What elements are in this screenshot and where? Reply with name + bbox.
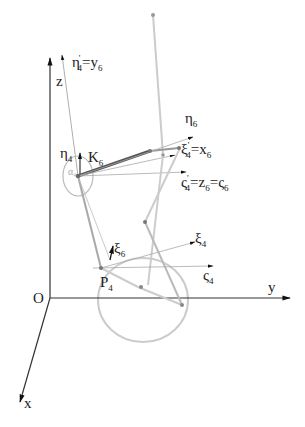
k6-joint — [76, 174, 80, 178]
zeta4-label: ς4 — [203, 267, 214, 286]
z-axis-label: z — [56, 73, 63, 89]
zeta4-axis — [93, 266, 213, 268]
lower-joint — [143, 220, 147, 224]
zeta4p-z6-zeta6-label: ς'4=z6=ς6 — [181, 173, 229, 193]
xi4p-x6-label: ξ'4=x6 — [181, 140, 212, 160]
bottom-mid-joint — [139, 285, 143, 289]
workspace-ellipse — [98, 258, 188, 342]
k6-link-ext — [150, 148, 179, 151]
xi6-arrow — [110, 246, 113, 260]
mid-joint — [161, 153, 165, 157]
alpha4-label: α4 — [68, 166, 76, 178]
eta6-label: η6 — [185, 110, 198, 129]
xi4-label: ξ4 — [195, 230, 207, 249]
p4-label: P4 — [100, 274, 113, 293]
p4-joint — [99, 266, 103, 270]
x-axis-label: x — [24, 395, 32, 411]
y-axis-label: y — [268, 279, 276, 295]
link-joint — [148, 149, 152, 153]
mid-link-a — [148, 155, 163, 285]
kinematic-diagram: O z y x η'4=y6 η4 K6 α4 η6 ξ'4=x6 ς'4=z6… — [0, 0, 305, 427]
xi6-label: ξ6 — [114, 240, 126, 259]
bottom-right-joint — [180, 303, 184, 307]
x-axis — [20, 298, 50, 402]
top-joint — [151, 13, 155, 17]
origin-label: O — [33, 290, 44, 306]
top-link — [153, 15, 163, 155]
eta4p-y6-label: η'4=y6 — [72, 53, 103, 73]
eta4-label: η4 — [60, 145, 73, 164]
k6-xi6-thin — [78, 176, 110, 260]
